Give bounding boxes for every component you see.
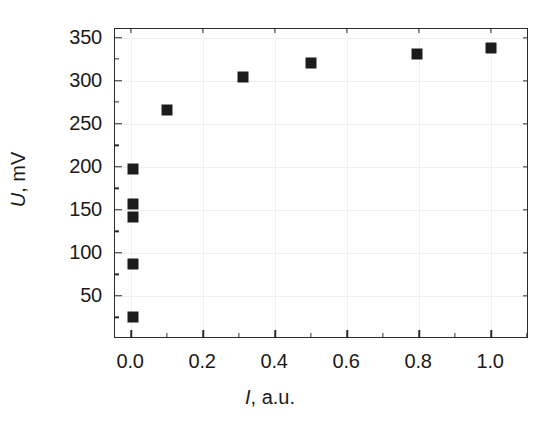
gridline-horizontal — [115, 38, 527, 39]
y-tick-major — [114, 123, 122, 125]
gridline-horizontal — [115, 210, 527, 211]
x-tick-top — [347, 28, 348, 33]
y-tick-major — [114, 80, 122, 82]
y-tick-right — [523, 80, 528, 81]
x-tick-minor — [383, 333, 384, 338]
y-tick-major — [114, 37, 122, 39]
y-tick-right — [523, 252, 528, 253]
x-tick-major — [346, 330, 348, 338]
gridline-horizontal — [115, 253, 527, 254]
y-tick-major — [114, 209, 122, 211]
y-tick-minor — [114, 274, 119, 275]
x-tick-label: 0.4 — [261, 350, 288, 373]
x-axis-label-unit: , a.u. — [251, 386, 295, 408]
x-tick-label: 0.2 — [189, 350, 216, 373]
x-tick-top — [419, 28, 420, 33]
x-tick-top — [275, 28, 276, 33]
gridline-vertical — [347, 29, 348, 337]
y-tick-major — [114, 295, 122, 297]
gridline-vertical — [419, 29, 420, 337]
y-tick-minor — [114, 102, 119, 103]
x-tick-major — [490, 330, 492, 338]
x-tick-minor — [311, 333, 312, 338]
x-tick-top — [131, 28, 132, 33]
gridline-vertical — [131, 29, 132, 337]
data-point-marker — [128, 312, 139, 323]
y-tick-minor — [114, 145, 119, 146]
data-point-marker — [128, 198, 139, 209]
y-tick-minor — [114, 58, 119, 59]
x-tick-minor — [167, 333, 168, 338]
data-point-marker — [128, 211, 139, 222]
data-point-marker — [237, 72, 248, 83]
x-tick-major — [202, 330, 204, 338]
figure-canvas: 0.00.20.40.60.81.0 50100150200250300350 … — [0, 0, 540, 426]
x-tick-label: 1.0 — [477, 350, 504, 373]
x-axis-label: I, a.u. — [0, 386, 540, 409]
gridline-horizontal — [115, 124, 527, 125]
gridline-vertical — [275, 29, 276, 337]
data-point-marker — [412, 48, 423, 59]
gridline-horizontal — [115, 81, 527, 82]
y-tick-right — [523, 166, 528, 167]
data-point-marker — [128, 164, 139, 175]
gridline-vertical — [203, 29, 204, 337]
x-tick-top — [203, 28, 204, 33]
y-axis-label: U, mV — [7, 90, 30, 270]
x-tick-label: 0.8 — [405, 350, 432, 373]
y-tick-right — [523, 37, 528, 38]
data-point-marker — [306, 57, 317, 68]
y-tick-minor — [114, 188, 119, 189]
x-tick-major — [418, 330, 420, 338]
y-tick-label: 300 — [6, 68, 102, 91]
x-tick-minor — [239, 333, 240, 338]
data-point-marker — [128, 259, 139, 270]
x-tick-top — [491, 28, 492, 33]
y-tick-right — [523, 209, 528, 210]
data-point-marker — [162, 104, 173, 115]
y-tick-label: 50 — [6, 283, 102, 306]
x-tick-label: 0.6 — [333, 350, 360, 373]
gridline-horizontal — [115, 167, 527, 168]
x-tick-minor — [455, 333, 456, 338]
x-tick-minor — [527, 333, 528, 338]
x-tick-major — [274, 330, 276, 338]
y-tick-right — [523, 123, 528, 124]
y-axis-label-symbol: U — [7, 193, 29, 207]
data-point-marker — [486, 42, 497, 53]
x-tick-label: 0.0 — [117, 350, 144, 373]
gridline-vertical — [491, 29, 492, 337]
y-tick-major — [114, 252, 122, 254]
y-tick-minor — [114, 317, 119, 318]
y-tick-label: 350 — [6, 25, 102, 48]
gridline-horizontal — [115, 296, 527, 297]
plot-area — [114, 28, 528, 338]
y-tick-minor — [114, 231, 119, 232]
x-tick-major — [130, 330, 132, 338]
y-axis-label-unit: , mV — [7, 152, 29, 193]
y-tick-major — [114, 166, 122, 168]
y-tick-right — [523, 295, 528, 296]
